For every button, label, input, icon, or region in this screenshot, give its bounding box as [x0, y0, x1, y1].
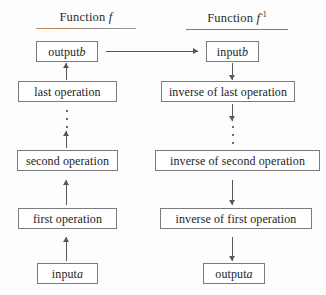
- node-second-operation: second operation: [17, 150, 118, 171]
- node-input-b-label: input: [217, 46, 242, 58]
- column-header-function-f-text: Function f: [58, 10, 113, 27]
- arrow-head-up: [63, 131, 69, 136]
- ellipsis-right-column: [228, 126, 237, 144]
- arrow-first-operation-to-second-operation: [62, 180, 71, 205]
- header-label-f-inverse: Function: [207, 11, 253, 25]
- ellipsis-dot: [232, 126, 234, 128]
- arrow-second-operation-to-ellipsis: [62, 131, 71, 148]
- node-input-a: input a: [37, 263, 98, 284]
- ellipsis-dot: [232, 142, 234, 144]
- node-inverse-of-last-operation-label: inverse of last operation: [169, 86, 287, 98]
- node-second-operation-label: second operation: [26, 155, 109, 167]
- node-input-a-variable: a: [77, 268, 83, 280]
- node-output-a: output a: [203, 263, 265, 284]
- arrow-shaft: [106, 51, 198, 52]
- column-header-function-f: Function f: [36, 10, 136, 29]
- arrow-last-operation-to-output-b: [62, 63, 71, 80]
- arrow-head-up: [63, 180, 69, 185]
- arrow-input-a-to-first-operation: [62, 237, 71, 261]
- arrow-inverse-second-to-inverse-first: [228, 180, 237, 205]
- arrow-head-down: [229, 75, 235, 80]
- node-inverse-of-second-operation: inverse of second operation: [155, 150, 320, 171]
- node-output-a-label: output: [215, 268, 246, 280]
- node-output-b-variable: b: [80, 46, 86, 58]
- node-output-b: output b: [36, 41, 98, 62]
- node-first-operation: first operation: [18, 208, 117, 229]
- arrow-head-down: [229, 256, 235, 261]
- node-output-b-label: output: [48, 46, 79, 58]
- ellipsis-dot: [66, 118, 68, 120]
- node-inverse-of-first-operation: inverse of first operation: [160, 208, 312, 229]
- arrow-inverse-first-operation-to-output-a: [228, 237, 237, 261]
- node-input-b-variable: b: [242, 46, 248, 58]
- function-inverse-flowchart: Function f Function f-1 output b last op…: [0, 0, 326, 295]
- node-inverse-of-second-operation-label: inverse of second operation: [170, 155, 305, 167]
- header-label-f: Function: [59, 10, 105, 24]
- header-symbol-f: f: [106, 10, 113, 24]
- node-input-a-label: input: [52, 268, 77, 280]
- node-last-operation: last operation: [18, 81, 117, 102]
- column-header-f-inverse-underline: [186, 29, 288, 30]
- node-inverse-of-first-operation-label: inverse of first operation: [176, 213, 297, 225]
- arrow-inverse-last-operation-to-ellipsis: [228, 104, 237, 121]
- column-header-function-f-inverse-text: Function f-1: [206, 10, 268, 28]
- column-header-function-f-inverse: Function f-1: [186, 10, 288, 30]
- node-last-operation-label: last operation: [34, 86, 100, 98]
- node-input-b: input b: [206, 41, 259, 62]
- column-header-f-underline: [36, 28, 136, 29]
- arrow-head-up: [63, 63, 69, 68]
- arrow-output-b-to-input-b: [106, 47, 198, 56]
- header-superscript-inverse: -1: [260, 10, 267, 19]
- arrow-head-down: [229, 116, 235, 121]
- node-output-a-variable: a: [247, 268, 253, 280]
- ellipsis-dot: [232, 134, 234, 136]
- node-inverse-of-last-operation: inverse of last operation: [161, 81, 295, 102]
- arrow-head-up: [63, 237, 69, 242]
- arrow-input-b-to-inverse-last-operation: [228, 63, 237, 80]
- ellipsis-left-column: [62, 110, 71, 128]
- ellipsis-dot: [66, 110, 68, 112]
- ellipsis-dot: [66, 126, 68, 128]
- arrow-head-down: [229, 200, 235, 205]
- arrow-head-right: [193, 48, 198, 54]
- node-first-operation-label: first operation: [33, 213, 102, 225]
